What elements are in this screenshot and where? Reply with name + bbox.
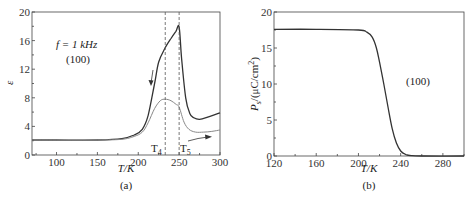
y-axis-label-a: ε xyxy=(3,80,15,85)
orientation-annotation-a: (100) xyxy=(66,53,90,66)
x-tick-label: 250 xyxy=(171,156,188,168)
x-tick-label: 160 xyxy=(308,157,325,169)
x-tick-label: 150 xyxy=(89,156,106,168)
panel-label-a: (a) xyxy=(120,179,133,192)
x-tick-label: 240 xyxy=(392,157,409,169)
y-tick-label: 20 xyxy=(19,6,31,18)
x-tick-label: 300 xyxy=(212,156,229,168)
x-axis-label-a: T/K xyxy=(118,162,135,174)
y-tick-label: 20 xyxy=(261,6,273,18)
y-tick-label: 12 xyxy=(19,63,30,75)
y-tick-label: 10 xyxy=(261,78,273,90)
x-axis-label-b: T/K xyxy=(361,162,378,174)
y-tick-label: 8 xyxy=(25,92,31,104)
cooling-arrow-icon xyxy=(149,70,154,86)
x-tick-label: 100 xyxy=(48,156,65,168)
y-tick-label: 0 xyxy=(267,150,273,162)
orientation-annotation-b: (100) xyxy=(406,75,430,88)
frequency-annotation: f = 1 kHz xyxy=(56,38,98,50)
y-tick-label: 5 xyxy=(267,114,273,126)
y-tick-label: 16 xyxy=(19,35,31,47)
series-line xyxy=(274,29,464,156)
y-tick-label: 0 xyxy=(25,149,31,161)
figure: 100150200250300 048121620 f = 1 kHz (100… xyxy=(0,0,470,205)
x-tick-label: 280 xyxy=(435,157,452,169)
series-line xyxy=(32,99,220,140)
series-lines-b xyxy=(274,29,464,156)
y-tick-label: 15 xyxy=(261,42,273,54)
y-tick-label: 4 xyxy=(25,120,31,132)
y-axis-ticks-a: 048121620 xyxy=(19,6,35,161)
chart-a: 100150200250300 048121620 f = 1 kHz (100… xyxy=(3,6,229,192)
chart-b: 120160200240280 05101520 (100) Ps/(μC/cm… xyxy=(247,6,464,192)
heating-arrow-icon xyxy=(188,135,212,142)
plot-frame-a xyxy=(32,12,220,155)
panel-label-b: (b) xyxy=(363,179,376,192)
